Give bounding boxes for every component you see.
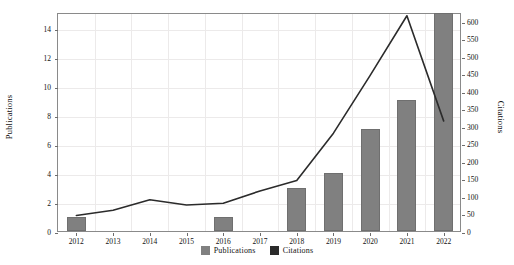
y-tick-right [462,145,465,146]
x-tick-label: 2014 [130,238,170,246]
y-tick-label-left: 14 [11,26,51,34]
line-series-citations [58,14,462,233]
x-tick [187,233,188,236]
y-tick-label-right: 150 [467,176,507,184]
x-tick-label: 2017 [240,238,280,246]
y-tick-label-left: 8 [11,113,51,121]
y-tick-right [462,75,465,76]
y-tick-right [462,110,465,111]
y-tick-label-right: 550 [467,36,507,44]
y-tick-label-left: 4 [11,171,51,179]
y-tick-label-right: 250 [467,141,507,149]
y-tick-label-left: 6 [11,142,51,150]
chart-legend: PublicationsCitations [0,246,514,255]
y-tick-right [462,180,465,181]
x-tick [297,233,298,236]
y-tick-label-right: 400 [467,89,507,97]
y-tick-right [462,40,465,41]
x-tick [333,233,334,236]
y-tick-right [462,198,465,199]
x-tick [260,233,261,236]
x-tick [113,233,114,236]
y-tick-label-left: 2 [11,200,51,208]
x-tick [407,233,408,236]
y-tick-label-right: 500 [467,54,507,62]
legend-swatch-icon [270,246,279,255]
y-tick-right [462,58,465,59]
y-tick-right [462,233,465,234]
legend-item-citations[interactable]: Citations [270,246,314,255]
x-tick-label: 2019 [313,238,353,246]
y-tick-left [55,233,58,234]
y-tick-label-left: 12 [11,55,51,63]
x-tick [370,233,371,236]
y-tick-label-right: 50 [467,211,507,219]
y-tick-label-right: 0 [467,229,507,237]
y-tick-label-right: 350 [467,106,507,114]
legend-item-publications[interactable]: Publications [201,246,256,255]
x-tick [223,233,224,236]
y-tick-right [462,93,465,94]
y-tick-label-right: 450 [467,71,507,79]
x-tick-label: 2018 [277,238,317,246]
legend-swatch-icon [201,246,210,255]
x-tick-label: 2016 [203,238,243,246]
publications-citations-chart: Publications Citations 02468101214 05010… [0,0,514,265]
x-tick-label: 2015 [167,238,207,246]
y-tick-label-right: 100 [467,194,507,202]
y-tick-right [462,128,465,129]
x-tick-label: 2013 [93,238,133,246]
x-tick [150,233,151,236]
x-tick [76,233,77,236]
y-tick-right [462,23,465,24]
y-tick-label-right: 600 [467,19,507,27]
y-tick-right [462,163,465,164]
x-tick-label: 2021 [387,238,427,246]
legend-label: Publications [214,246,256,255]
plot-area: 02468101214 0501001502002503003504004505… [57,13,461,232]
y-tick-label-left: 10 [11,84,51,92]
y-tick-label-left: 0 [11,229,51,237]
y-tick-label-right: 300 [467,124,507,132]
x-tick-label: 2022 [424,238,464,246]
x-tick-label: 2012 [56,238,96,246]
y-tick-right [462,215,465,216]
y-tick-label-right: 200 [467,159,507,167]
x-tick [444,233,445,236]
x-tick-label: 2020 [350,238,390,246]
legend-label: Citations [283,246,314,255]
citations-polyline [76,16,443,216]
